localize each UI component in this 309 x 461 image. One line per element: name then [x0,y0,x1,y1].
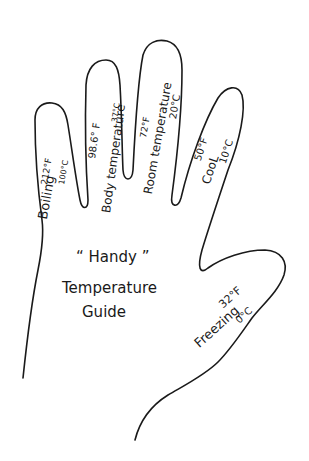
hand-outline-icon [0,0,309,461]
title-line-guide: Guide [82,305,126,320]
title-line-temperature: Temperature [62,281,157,296]
handy-temperature-diagram: 212°F Boiling 100°C 98.6° F Body tempera… [0,0,309,461]
title-line-handy: “ Handy ” [76,250,149,265]
